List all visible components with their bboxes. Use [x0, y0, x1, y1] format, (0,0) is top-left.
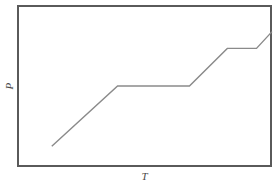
figure-container: P T	[0, 0, 276, 187]
x-axis-label: T	[17, 170, 272, 182]
y-axis-label: P	[0, 75, 19, 97]
plot-frame	[17, 5, 272, 167]
